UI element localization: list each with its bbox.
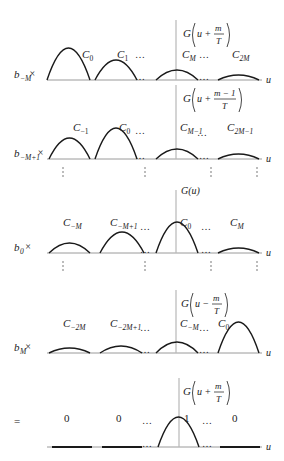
fraction-denominator: T bbox=[214, 306, 220, 316]
multiplier-label: b−M+1× bbox=[14, 147, 43, 162]
ellipsis: … bbox=[135, 71, 145, 82]
function-op: − bbox=[203, 298, 209, 309]
ellipsis: … bbox=[135, 49, 145, 60]
axis-label-u: u bbox=[266, 347, 271, 358]
coefficient-label: C−2M bbox=[63, 317, 86, 332]
coefficient-label: CM bbox=[230, 216, 245, 231]
coefficient-label-sub: 2M bbox=[240, 54, 251, 63]
vertical-ellipsis bbox=[144, 261, 146, 271]
coefficient-label-sub: −2M bbox=[71, 323, 87, 332]
coefficient-label: C0 bbox=[218, 317, 230, 332]
function-label: G(u) bbox=[181, 185, 201, 197]
ellipsis: … bbox=[199, 49, 209, 60]
left-paren bbox=[193, 88, 196, 112]
coefficient-curve bbox=[95, 128, 137, 159]
fraction-numerator: m bbox=[215, 23, 222, 33]
function-op: + bbox=[205, 93, 211, 104]
multiplier-sub: 0 bbox=[20, 247, 24, 256]
fraction-denominator: T bbox=[216, 394, 222, 404]
vertical-ellipsis bbox=[62, 261, 64, 271]
coefficient-curve bbox=[218, 154, 259, 159]
ellipsis: … bbox=[135, 150, 145, 161]
coefficient-label: C−M bbox=[180, 317, 200, 332]
coefficient-label: C−M+1 bbox=[110, 216, 138, 231]
coefficient-label-sub: −2M+1 bbox=[118, 323, 142, 332]
ellipsis: … bbox=[142, 415, 152, 426]
coefficient-label: C−1 bbox=[73, 121, 89, 136]
times-sign: × bbox=[29, 68, 35, 79]
coefficient-label-sub: 0 bbox=[226, 323, 230, 332]
vertical-ellipsis bbox=[210, 261, 212, 271]
ellipsis: … bbox=[140, 344, 150, 355]
coefficient-label: C2M bbox=[232, 48, 250, 63]
coefficient-value: 0 bbox=[64, 412, 70, 424]
left-paren bbox=[191, 293, 194, 317]
multiplier-label: = bbox=[14, 415, 20, 427]
coefficient-label: C2M−1 bbox=[227, 121, 253, 136]
times-sign: × bbox=[25, 241, 31, 252]
vertical-ellipsis bbox=[256, 167, 258, 177]
coefficient-label-sub: 2M−1 bbox=[235, 127, 254, 136]
coefficient-curve bbox=[95, 60, 137, 80]
function-arg: u bbox=[197, 93, 202, 104]
ellipsis: … bbox=[202, 415, 212, 426]
multiplier-label: b0× bbox=[14, 241, 31, 256]
fraction-numerator: m bbox=[213, 293, 220, 303]
vertical-ellipsis bbox=[144, 167, 146, 177]
coefficient-label-sub: M bbox=[189, 54, 197, 63]
left-paren bbox=[193, 23, 196, 47]
vertical-ellipsis bbox=[62, 167, 64, 177]
coefficient-label-sub: 0 bbox=[127, 127, 131, 136]
fraction-denominator: T bbox=[222, 101, 228, 111]
coefficient-label-sub: −1 bbox=[81, 127, 89, 136]
coefficient-label-sub: M bbox=[237, 222, 245, 231]
coefficient-curve bbox=[100, 346, 142, 353]
ellipsis: … bbox=[142, 438, 152, 449]
right-paren bbox=[225, 293, 228, 317]
coefficient-curve bbox=[156, 342, 198, 353]
ellipsis: … bbox=[199, 150, 209, 161]
coefficient-curve bbox=[156, 149, 198, 159]
coefficient-value: 0 bbox=[116, 412, 122, 424]
coefficient-label-sub: 0 bbox=[90, 54, 94, 63]
times-sign: × bbox=[25, 341, 31, 352]
left-paren bbox=[193, 381, 196, 405]
coefficient-curve bbox=[49, 243, 90, 253]
panel-sum: u=Gu+mT1000………… bbox=[14, 378, 271, 452]
function-name: G bbox=[183, 27, 191, 39]
coefficient-label-sub: 0 bbox=[188, 222, 192, 231]
coefficient-label-sub: −M+1 bbox=[118, 222, 138, 231]
coefficient-value: 0 bbox=[232, 412, 238, 424]
vertical-ellipsis bbox=[256, 261, 258, 271]
ellipsis: … bbox=[199, 322, 209, 333]
axis-label-u: u bbox=[266, 153, 271, 164]
coefficient-curve bbox=[49, 138, 90, 159]
function-label: Gu+mT bbox=[183, 381, 230, 405]
ellipsis: … bbox=[140, 322, 150, 333]
coefficient-curve bbox=[100, 232, 144, 253]
ellipsis: … bbox=[202, 438, 212, 449]
function-name: G bbox=[183, 385, 191, 397]
fraction-denominator: T bbox=[216, 36, 222, 46]
coefficient-value: 1 bbox=[184, 412, 190, 424]
function-label: Gu+m − 1T bbox=[183, 88, 242, 112]
ellipsis: … bbox=[135, 125, 145, 136]
panel-b-0: ub0×G(u)C−MC−M+1C0CM………… bbox=[14, 185, 271, 271]
equals-sign: = bbox=[14, 415, 20, 427]
times-sign: × bbox=[38, 147, 44, 158]
function-arg: u bbox=[197, 386, 202, 397]
ellipsis: … bbox=[140, 221, 150, 232]
axis-label-u: u bbox=[266, 74, 271, 85]
function-op: + bbox=[205, 28, 211, 39]
fourier-coefficient-sum-diagram: ub−M×Gu+mTC0C1CMC2M…………ub−M+1×Gu+m − 1TC… bbox=[0, 0, 284, 461]
ellipsis: … bbox=[199, 344, 209, 355]
ellipsis: … bbox=[201, 221, 211, 232]
axis-label-u: u bbox=[266, 441, 271, 452]
right-paren bbox=[239, 88, 242, 112]
panel-b-minus-M: ub−M×Gu+mTC0C1CMC2M………… bbox=[14, 20, 271, 85]
coefficient-label-sub: −M bbox=[71, 222, 83, 231]
coefficient-label: CM bbox=[182, 48, 197, 63]
ellipsis: … bbox=[140, 244, 150, 255]
coefficient-curve bbox=[156, 70, 198, 80]
right-paren bbox=[227, 381, 230, 405]
